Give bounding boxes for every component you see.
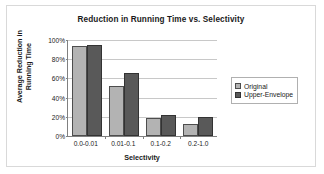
bar-upper-envelope-0.0-0.01 — [87, 45, 102, 136]
bar-group-0.2-1.0 — [180, 40, 217, 136]
bar-original-0.2-1.0 — [183, 124, 198, 136]
y-axis-tick-label: 60% — [52, 75, 65, 82]
y-axis-tick-label: 80% — [52, 56, 65, 63]
y-axis-title-line-2: Running Time — [25, 21, 34, 113]
legend-label: Upper-Envelope — [244, 91, 293, 98]
bar-group-0.01-0.1 — [105, 40, 142, 136]
x-axis-tick-mark — [143, 136, 144, 139]
y-axis-title-line-1: Average Reduction in — [16, 21, 25, 113]
x-axis-tick-label: 0.01-0.1 — [105, 140, 143, 147]
legend-swatch-icon — [235, 92, 241, 98]
bars-layer — [68, 40, 217, 136]
bar-upper-envelope-0.2-1.0 — [198, 117, 213, 136]
y-axis-tick-mark — [66, 136, 69, 137]
legend-item-original[interactable]: Original — [235, 83, 293, 90]
legend-swatch-icon — [235, 83, 241, 89]
x-axis-title: Selectivity — [67, 153, 217, 162]
plot-area: 100%80%60%40%20%0% — [67, 40, 217, 137]
chart-title: Reduction in Running Time vs. Selectivit… — [7, 15, 315, 24]
y-axis-tick-label: 20% — [52, 113, 65, 120]
y-axis-tick-label: 100% — [48, 37, 65, 44]
chart-container: Reduction in Running Time vs. Selectivit… — [6, 5, 316, 167]
bar-upper-envelope-0.01-0.1 — [124, 73, 139, 136]
y-axis-tick-label: 0% — [55, 133, 65, 140]
bar-group-0.1-0.2 — [143, 40, 180, 136]
legend-label: Original — [244, 83, 267, 90]
legend-item-upper-envelope[interactable]: Upper-Envelope — [235, 91, 293, 98]
x-axis-tick-label: 0.1-0.2 — [142, 140, 180, 147]
chart-legend: OriginalUpper-Envelope — [231, 77, 298, 104]
x-axis-tick-mark — [180, 136, 181, 139]
x-axis-tick-label: 0.2-1.0 — [180, 140, 218, 147]
x-axis-tick-label: 0.0-0.01 — [67, 140, 105, 147]
bar-original-0.01-0.1 — [109, 86, 124, 136]
bar-original-0.0-0.01 — [72, 46, 87, 136]
bar-original-0.1-0.2 — [146, 118, 161, 136]
y-axis-tick-label: 40% — [52, 94, 65, 101]
bar-upper-envelope-0.1-0.2 — [161, 115, 176, 136]
y-axis-title: Average Reduction in Running Time — [16, 21, 33, 113]
bar-group-0.0-0.01 — [68, 40, 105, 136]
x-axis-tick-mark — [105, 136, 106, 139]
x-axis-tick-labels: 0.0-0.010.01-0.10.1-0.20.2-1.0 — [67, 140, 217, 147]
